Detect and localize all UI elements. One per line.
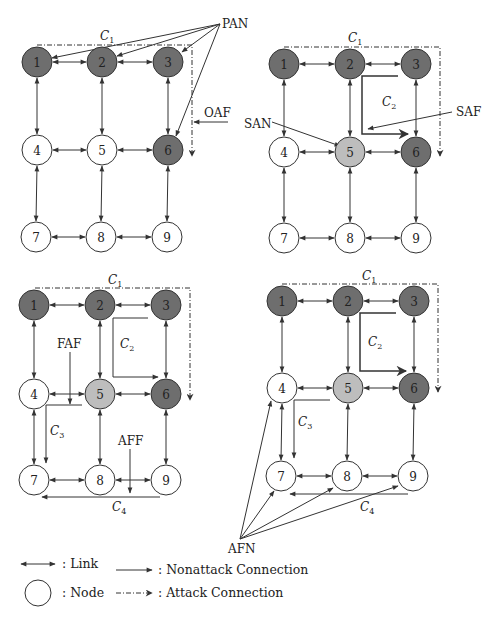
node-label: 5 — [346, 146, 354, 160]
node-label: 5 — [96, 388, 104, 402]
node-compromised: 2 — [87, 47, 117, 77]
legend-attack-label: : Attack Connection — [158, 585, 283, 600]
node-label: 8 — [96, 474, 104, 488]
node-normal: 8 — [332, 461, 362, 491]
node-compromised: 3 — [401, 49, 431, 79]
connection-label: C4 — [112, 500, 126, 516]
node-label: 6 — [162, 388, 170, 402]
node-label: 9 — [409, 470, 417, 484]
node-compromised: 2 — [335, 49, 365, 79]
node-label: 7 — [280, 232, 288, 246]
node-label: 3 — [162, 299, 170, 313]
node-label: 5 — [344, 382, 352, 396]
connection-label: C3 — [50, 424, 64, 440]
node-compromised: 3 — [151, 290, 181, 320]
annotation-oaf: OAF — [204, 106, 231, 120]
pan-arrows — [52, 24, 220, 136]
node-compromised: 6 — [153, 135, 183, 165]
panel-1 — [36, 24, 228, 237]
node-label: 3 — [164, 56, 172, 70]
legend: : Link : Nonattack Connection : Node : A… — [21, 556, 308, 606]
connection-label: C4 — [360, 500, 374, 516]
annotation-aff: AFF — [117, 434, 143, 448]
node-suspicious: 5 — [333, 373, 363, 403]
node-label: 1 — [278, 295, 286, 309]
connection-label: C1 — [362, 269, 376, 285]
node-normal: 8 — [85, 465, 115, 495]
node-normal: 7 — [269, 223, 299, 253]
node-label: 8 — [343, 470, 351, 484]
node-label: 4 — [280, 146, 288, 160]
node-label: 8 — [346, 232, 354, 246]
node-compromised: 1 — [269, 49, 299, 79]
nonattack-connection-c2 — [360, 313, 406, 371]
node-compromised: 2 — [85, 290, 115, 320]
node-compromised: 6 — [151, 379, 181, 409]
node-normal: 9 — [398, 461, 428, 491]
node-compromised: 3 — [399, 286, 429, 316]
node-label: 3 — [412, 58, 420, 72]
node-normal: 4 — [19, 379, 49, 409]
node-compromised: 1 — [267, 286, 297, 316]
node-label: 5 — [98, 144, 106, 158]
node-compromised: 1 — [19, 290, 49, 320]
connection-label: C2 — [120, 337, 134, 353]
node-label: 6 — [410, 382, 418, 396]
node-normal: 9 — [401, 223, 431, 253]
node-label: 1 — [33, 56, 41, 70]
node-label: 6 — [412, 146, 420, 160]
node-normal: 4 — [269, 137, 299, 167]
connection-label: C2 — [382, 95, 396, 111]
node-label: 2 — [346, 58, 354, 72]
node-label: 3 — [410, 295, 418, 309]
annotation-faf: FAF — [57, 337, 81, 351]
node-label: 4 — [278, 382, 286, 396]
node-label: 1 — [280, 58, 288, 72]
annotation-pan: PAN — [222, 17, 248, 31]
node-compromised: 2 — [333, 286, 363, 316]
annotation-afn: AFN — [227, 542, 256, 556]
node-normal: 4 — [267, 373, 297, 403]
connection-label: C2 — [368, 335, 382, 351]
node-label: 9 — [162, 474, 170, 488]
node-suspicious: 5 — [85, 379, 115, 409]
node-normal: 7 — [21, 222, 51, 252]
node-label: 2 — [344, 295, 352, 309]
node-label: 6 — [164, 144, 172, 158]
annotation-san: SAN — [244, 117, 271, 131]
node-normal: 5 — [87, 135, 117, 165]
node-normal: 7 — [19, 465, 49, 495]
node-label: 7 — [277, 470, 285, 484]
legend-node-label: : Node — [62, 585, 104, 600]
node-label: 4 — [30, 388, 38, 402]
node-compromised: 6 — [401, 137, 431, 167]
connection-label: C1 — [348, 31, 362, 47]
node-label: 2 — [96, 299, 104, 313]
node-normal: 8 — [335, 223, 365, 253]
node-label: 4 — [33, 144, 41, 158]
node-label: 1 — [30, 299, 38, 313]
node-label: 2 — [98, 56, 106, 70]
connection-label: C1 — [108, 273, 122, 289]
annotation-saf: SAF — [456, 105, 481, 119]
node-normal: 9 — [151, 465, 181, 495]
node-label: 8 — [97, 231, 105, 245]
node-label: 7 — [30, 474, 38, 488]
node-label: 9 — [163, 231, 171, 245]
connection-label: C3 — [298, 415, 312, 431]
network-attack-diagram: 123456789123456789123456789123456789 C1P… — [0, 0, 488, 619]
node-normal: 8 — [86, 222, 116, 252]
panel-4 — [240, 284, 438, 539]
node-compromised: 3 — [153, 47, 183, 77]
node-normal: 9 — [152, 222, 182, 252]
node-compromised: 6 — [399, 373, 429, 403]
afn-arrows — [240, 401, 398, 539]
legend-link-label: : Link — [62, 556, 99, 571]
connection-label: C1 — [100, 29, 114, 45]
node-normal: 7 — [266, 461, 296, 491]
node-compromised: 1 — [22, 47, 52, 77]
node-label: 7 — [32, 231, 40, 245]
saf-arrow — [368, 112, 452, 129]
node-suspicious: 5 — [335, 137, 365, 167]
node-normal: 4 — [22, 135, 52, 165]
